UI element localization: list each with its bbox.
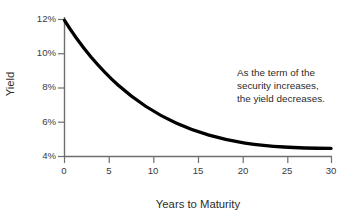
x-axis-title: Years to Maturity [64, 198, 332, 210]
xtick-label-5: 5 [96, 165, 122, 176]
yield-curve-chart: Yield Curve 12% 10% 8% 6% 4% [0, 0, 350, 224]
y-axis-title: Yield [4, 58, 16, 110]
xtick-label-25: 25 [274, 165, 300, 176]
xtick-label-15: 15 [185, 165, 211, 176]
chart-annotation: As the term of the security increases, t… [237, 66, 349, 106]
ytick-label-10: 10% [22, 47, 56, 58]
chart-title: Yield Curve [0, 0, 350, 1]
y-axis-ticks [58, 20, 64, 157]
xtick-label-30: 30 [318, 165, 344, 176]
ytick-label-4: 4% [22, 150, 56, 161]
xtick-label-0: 0 [51, 165, 77, 176]
annotation-line-2: security increases, [237, 79, 349, 92]
plot-area [0, 0, 350, 224]
ytick-label-6: 6% [22, 116, 56, 127]
annotation-line-3: the yield decreases. [237, 92, 349, 105]
ytick-label-8: 8% [22, 81, 56, 92]
x-axis-ticks [65, 157, 332, 164]
xtick-label-10: 10 [140, 165, 166, 176]
annotation-line-1: As the term of the [237, 66, 349, 79]
xtick-label-20: 20 [230, 165, 256, 176]
ytick-label-12: 12% [22, 13, 56, 24]
